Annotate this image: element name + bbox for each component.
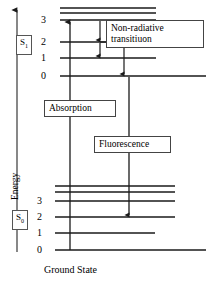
- absorption-label: Absorption: [44, 100, 116, 117]
- state-label-s1-subscript: 1: [25, 43, 28, 49]
- fluorescence-label: Fluorescence: [94, 136, 171, 153]
- ground-state-label: Ground State: [44, 264, 97, 275]
- state-label-s1: S1: [16, 35, 32, 55]
- s1-level-label-1: 1: [34, 53, 46, 63]
- s0-level-label-3: 3: [30, 196, 42, 206]
- s0-energy-levels: [55, 186, 206, 250]
- nonradiative-label-line2: transitiuon: [111, 34, 199, 45]
- s1-level-label-2: 2: [34, 37, 46, 47]
- jablonski-diagram: 3 2 1 0 3 2 1 0 S1 S0 Non-radiative tran…: [0, 0, 208, 285]
- state-label-s0-subscript: 0: [21, 218, 24, 224]
- s1-level-label-3: 3: [34, 15, 46, 25]
- nonradiative-label-line1: Non-radiative: [111, 23, 199, 34]
- s1-level-label-0: 0: [34, 71, 46, 81]
- energy-axis-label: Energy: [10, 173, 20, 200]
- s0-level-label-2: 2: [30, 212, 42, 222]
- s0-level-label-1: 1: [30, 228, 42, 238]
- nonradiative-transition-label: Non-radiative transitiuon: [106, 20, 204, 48]
- s0-level-label-0: 0: [30, 245, 42, 255]
- state-label-s0: S0: [12, 210, 28, 230]
